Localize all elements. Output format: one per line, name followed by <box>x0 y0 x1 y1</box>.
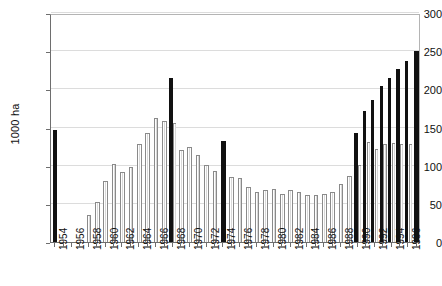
x-tick-mark-1958 <box>88 243 89 247</box>
x-tick-label-1958: 1958 <box>92 228 103 250</box>
bar-1991-highlighted <box>363 111 366 242</box>
gridline-250 <box>51 50 419 51</box>
x-tick-mark-1990 <box>357 243 358 247</box>
bar-1964-standard <box>137 144 142 242</box>
x-tick-label-1986: 1986 <box>327 228 338 250</box>
x-tick-mark-1971 <box>197 243 198 247</box>
x-tick-label-1996: 1996 <box>411 228 422 250</box>
bar-1968-standard <box>173 123 176 242</box>
x-tick-mark-1972 <box>206 243 207 247</box>
x-tick-label-1990: 1990 <box>361 228 372 250</box>
plot-area <box>50 14 420 243</box>
bar-1996-highlighted <box>405 61 408 242</box>
x-tick-mark-1980 <box>273 243 274 247</box>
bar-1965-standard <box>145 133 150 242</box>
bar-1995-highlighted <box>396 69 399 242</box>
x-tick-label-1988: 1988 <box>344 228 355 250</box>
x-tick-mark-1955 <box>63 243 64 247</box>
x-tick-mark-1982 <box>290 243 291 247</box>
gridline-300 <box>51 12 419 13</box>
x-tick-mark-1983 <box>298 243 299 247</box>
x-tick-mark-1969 <box>180 243 181 247</box>
bar-1988-standard <box>339 184 344 242</box>
bar-1997-highlighted <box>414 51 419 242</box>
x-tick-mark-1985 <box>315 243 316 247</box>
x-tick-mark-1956 <box>71 243 72 247</box>
x-tick-mark-1986 <box>323 243 324 247</box>
bar-1974-highlighted <box>221 141 226 242</box>
x-tick-label-1980: 1980 <box>277 228 288 250</box>
x-tick-mark-1976 <box>239 243 240 247</box>
x-tick-mark-1974 <box>222 243 223 247</box>
x-tick-mark-1973 <box>214 243 215 247</box>
bar-1994-highlighted <box>388 78 391 242</box>
x-tick-label-1976: 1976 <box>243 228 254 250</box>
bar-1986-standard <box>322 194 327 242</box>
x-tick-mark-1970 <box>189 243 190 247</box>
x-tick-label-1972: 1972 <box>210 228 221 250</box>
x-tick-mark-1967 <box>164 243 165 247</box>
x-tick-mark-1965 <box>147 243 148 247</box>
x-tick-label-1974: 1974 <box>226 228 237 250</box>
x-tick-mark-1995 <box>399 243 400 247</box>
x-tick-label-1970: 1970 <box>193 228 204 250</box>
x-tick-mark-1963 <box>130 243 131 247</box>
x-tick-mark-1975 <box>231 243 232 247</box>
bar-1990-highlighted <box>354 133 357 242</box>
x-tick-label-1956: 1956 <box>75 228 86 250</box>
x-tick-label-1992: 1992 <box>378 228 389 250</box>
bar-1993-highlighted <box>380 86 383 242</box>
x-tick-label-1960: 1960 <box>109 228 120 250</box>
x-tick-mark-1978 <box>256 243 257 247</box>
bar-1967-standard <box>162 121 167 242</box>
x-tick-mark-1954 <box>54 243 55 247</box>
bar-1992-highlighted <box>371 100 374 242</box>
x-tick-mark-1993 <box>382 243 383 247</box>
x-tick-mark-1979 <box>264 243 265 247</box>
x-tick-label-1984: 1984 <box>310 228 321 250</box>
x-tick-mark-1961 <box>113 243 114 247</box>
x-tick-mark-1989 <box>349 243 350 247</box>
x-tick-label-1978: 1978 <box>260 228 271 250</box>
x-tick-mark-1964 <box>138 243 139 247</box>
y-axis-title: 1000 ha <box>9 64 21 184</box>
bar-1968-highlighted <box>169 78 172 242</box>
x-tick-mark-1960 <box>105 243 106 247</box>
bar-1958-standard <box>87 215 92 242</box>
x-tick-mark-1962 <box>121 243 122 247</box>
x-tick-label-1994: 1994 <box>395 228 406 250</box>
bar-1978-standard <box>255 192 260 242</box>
x-tick-label-1982: 1982 <box>294 228 305 250</box>
x-tick-label-1966: 1966 <box>159 228 170 250</box>
x-tick-label-1954: 1954 <box>58 228 69 250</box>
bar-1960-standard <box>103 181 108 242</box>
x-tick-mark-1991 <box>365 243 366 247</box>
x-tick-label-1968: 1968 <box>176 228 187 250</box>
x-tick-mark-1968 <box>172 243 173 247</box>
bar-1982-standard <box>288 190 293 242</box>
x-tick-mark-1987 <box>332 243 333 247</box>
bar-1976-standard <box>238 178 243 242</box>
x-tick-mark-1957 <box>79 243 80 247</box>
bar-1954-highlighted <box>53 130 58 242</box>
x-tick-mark-1984 <box>306 243 307 247</box>
x-tick-mark-1966 <box>155 243 156 247</box>
x-tick-mark-1988 <box>340 243 341 247</box>
gridline-200 <box>51 88 419 89</box>
x-tick-mark-1981 <box>281 243 282 247</box>
x-tick-label-1964: 1964 <box>142 228 153 250</box>
x-axis: 1954195619581960196219641966196819701972… <box>50 243 420 286</box>
x-tick-mark-1996 <box>407 243 408 247</box>
x-tick-mark-1977 <box>248 243 249 247</box>
x-tick-mark-1994 <box>391 243 392 247</box>
x-tick-mark-1992 <box>374 243 375 247</box>
bar-chart: 1000 ha 050100150200250300 1954195619581… <box>0 0 442 286</box>
x-tick-label-1962: 1962 <box>125 228 136 250</box>
x-tick-mark-1959 <box>96 243 97 247</box>
bar-1970-standard <box>187 147 192 242</box>
bar-1966-standard <box>154 118 159 242</box>
x-tick-mark-1997 <box>416 243 417 247</box>
bar-1972-standard <box>204 165 209 242</box>
bar-1980-standard <box>272 189 277 242</box>
